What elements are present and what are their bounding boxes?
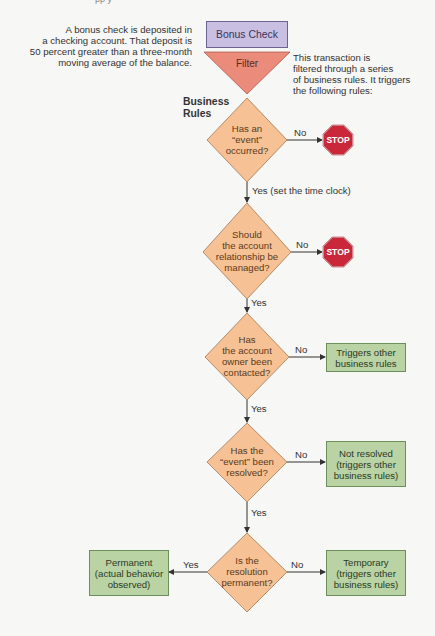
decision-text-line: relationship be (203, 251, 291, 262)
edge-label-yes: Yes (251, 507, 267, 518)
decision-text-line: Has the (207, 445, 287, 456)
decision-text-line: contacted? (205, 367, 289, 378)
outcome-text-line: observed) (108, 579, 151, 590)
outcome-text-line: (actual behavior (95, 568, 163, 579)
bonus-check-box: Bonus Check (206, 21, 288, 48)
decision-text-line: resolved? (207, 467, 287, 478)
edge-label-no: No (296, 239, 308, 250)
edge-label-no: No (291, 559, 303, 570)
decision-text-line: Is the (207, 555, 287, 566)
filter-label: Filter (204, 58, 290, 69)
outcome-text-line: Triggers other (336, 347, 395, 358)
decision-text-line: Has (205, 334, 289, 345)
decision-text-line: Should (203, 229, 291, 240)
outcome-permanent: Permanent (actual behavior observed) (89, 550, 169, 596)
business-rules-label-line: Business (183, 96, 229, 108)
outcome-text-line: business rules (335, 358, 396, 369)
edge-label-no: No (294, 127, 306, 138)
decision-text-line: “event” (207, 134, 287, 145)
decision-text-event-occurred: Has an “event” occurred? (207, 123, 287, 156)
outcome-text-line: business rules) (334, 470, 399, 481)
edge-label-yes: Yes (set the time clock) (252, 185, 351, 196)
stop-label: STOP (323, 134, 353, 146)
decision-text-line: the account (205, 345, 289, 356)
decision-text-line: owner been (205, 356, 289, 367)
outcome-text-line: (triggers other (336, 459, 396, 470)
decision-text-line: Has an (207, 123, 287, 134)
outcome-triggers-other-rules: Triggers other business rules (326, 343, 406, 372)
decision-text-line: “event” been (207, 456, 287, 467)
decision-text-line: resolution (207, 566, 287, 577)
decision-text-event-resolved: Has the “event” been resolved? (207, 445, 287, 478)
decision-text-relationship-managed: Should the account relationship be manag… (203, 229, 291, 273)
decision-text-line: the account (203, 240, 291, 251)
decision-text-line: occurred? (207, 145, 287, 156)
decision-text-line: managed? (203, 262, 291, 273)
stop-label: STOP (323, 246, 353, 258)
decision-text-owner-contacted: Has the account owner been contacted? (205, 334, 289, 378)
decision-text-line: permanent? (207, 577, 287, 588)
outcome-text-line: Not resolved (339, 448, 393, 459)
edge-label-no: No (295, 344, 307, 355)
edge-label-yes: Yes (251, 403, 267, 414)
outcome-text-line: business rules) (334, 579, 399, 590)
outcome-not-resolved: Not resolved (triggers other business ru… (326, 441, 406, 487)
edge-label-yes: Yes (183, 559, 199, 570)
business-rules-label: Business Rules (183, 96, 229, 120)
outcome-text-line: Temporary (343, 557, 388, 568)
decision-text-resolution-permanent: Is the resolution permanent? (207, 555, 287, 588)
outcome-text-line: (triggers other (336, 568, 396, 579)
edge-label-yes: Yes (251, 297, 267, 308)
business-rules-label-line: Rules (183, 108, 229, 120)
outcome-text-line: Permanent (106, 557, 153, 568)
edge-label-no: No (295, 449, 307, 460)
outcome-temporary: Temporary (triggers other business rules… (326, 550, 406, 596)
